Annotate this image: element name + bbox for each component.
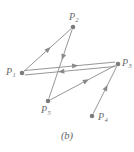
node-label-p5: P5 xyxy=(41,105,50,115)
edge-p3-to-p1 xyxy=(25,66,115,74)
figure-panel: P1P2P3P4P5 (b) xyxy=(0,0,134,152)
node-label-subscript: 2 xyxy=(75,16,78,23)
node-p3[interactable] xyxy=(116,62,121,67)
arrowhead-p5-to-p3 xyxy=(82,79,89,84)
nodes-group xyxy=(20,25,121,119)
node-p2[interactable] xyxy=(71,25,76,30)
node-p5[interactable] xyxy=(46,99,51,104)
figure-caption: (b) xyxy=(0,130,134,141)
edge-p2-to-p5 xyxy=(49,30,72,98)
node-p1[interactable] xyxy=(20,71,25,76)
edge-p1-to-p3 xyxy=(25,62,115,70)
edge-p5-to-p3 xyxy=(51,65,116,99)
node-label-subscript: 5 xyxy=(47,109,50,116)
node-label-subscript: 1 xyxy=(12,71,15,78)
node-p4[interactable] xyxy=(90,114,95,119)
node-label-p1: P1 xyxy=(6,67,15,77)
node-label-p2: P2 xyxy=(69,12,78,22)
arrowhead-p1-to-p3 xyxy=(72,64,78,69)
node-label-p3: P3 xyxy=(122,58,131,68)
node-label-p4: P4 xyxy=(98,112,107,122)
arrowhead-p4-to-p3 xyxy=(103,85,108,92)
node-label-subscript: 3 xyxy=(128,62,131,69)
arrowhead-p2-to-p5 xyxy=(61,53,66,60)
edges-group xyxy=(24,29,116,113)
node-label-subscript: 4 xyxy=(104,116,107,123)
